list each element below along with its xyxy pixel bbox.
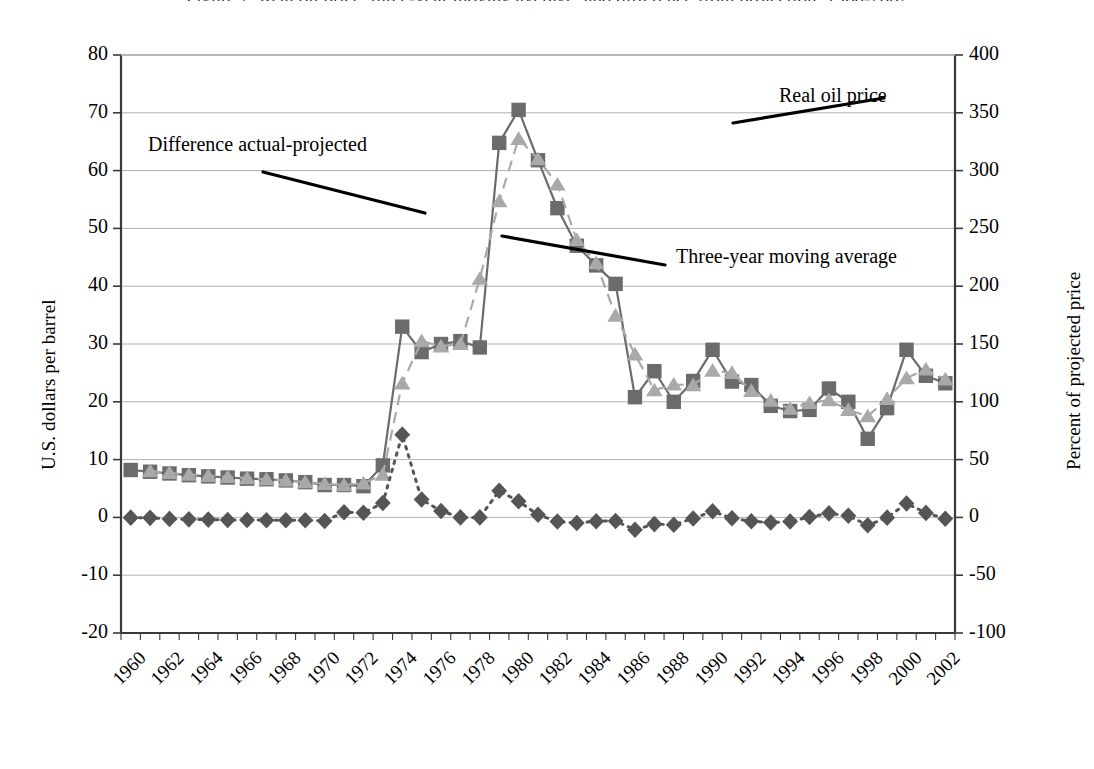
chart-plot-svg [0,0,1094,769]
data-point [317,513,333,530]
left-axis-tick--10: -10 [81,562,108,585]
annotation-difference-actual-projected: Difference actual-projected [148,133,367,156]
data-point [898,371,915,385]
left-axis-tick-60: 60 [88,158,108,181]
data-point [472,509,488,526]
chart-figure: Figure 2. Real oil price, three-year mov… [0,0,1094,769]
data-point [395,319,409,333]
left-axis-title: U.S. dollars per barrel [38,299,60,470]
data-point [840,507,856,524]
data-point [491,483,507,500]
data-point [763,514,779,531]
left-axis-tick-30: 30 [88,331,108,354]
left-axis-tick-70: 70 [88,100,108,123]
data-point [608,277,622,291]
data-point [705,343,719,357]
data-point [879,509,895,526]
data-point [860,517,876,534]
data-point [530,506,546,523]
data-point [724,510,740,527]
data-point [782,513,798,530]
data-point [394,426,410,443]
right-axis-tick-300: 300 [969,158,999,181]
right-axis-tick--50: -50 [969,562,996,585]
data-point [704,363,721,377]
data-point [549,513,565,530]
data-point [511,493,527,510]
data-point [162,511,178,528]
data-point [608,513,624,530]
data-point [336,504,352,521]
data-point [510,131,527,145]
annotation-three-year-moving-average: Three-year moving average [676,245,897,268]
left-axis-tick--20: -20 [81,620,108,643]
data-point [667,395,681,409]
data-point [123,509,139,526]
right-axis-tick-0: 0 [969,504,979,527]
data-point [200,511,216,528]
data-point [899,343,913,357]
data-point [356,504,372,521]
right-axis-tick-100: 100 [969,389,999,412]
data-point [899,495,915,512]
data-point [278,512,294,529]
data-point [297,512,313,529]
left-axis-tick-40: 40 [88,273,108,296]
data-point [647,364,661,378]
data-point [937,510,953,527]
data-point [394,376,411,390]
data-point [666,516,682,533]
data-point [588,513,604,530]
data-point [627,521,643,538]
right-axis-tick-50: 50 [969,447,989,470]
right-axis-tick-400: 400 [969,42,999,65]
data-point [685,510,701,527]
right-axis-tick-150: 150 [969,331,999,354]
data-point [861,432,875,446]
data-point [492,136,506,150]
left-axis-tick-80: 80 [88,42,108,65]
data-point [142,510,158,527]
data-point [802,509,818,526]
data-point [743,513,759,530]
data-point [627,347,644,361]
data-point [918,505,934,522]
data-point [452,509,468,526]
right-axis-title: Percent of projected price [1063,272,1085,470]
data-point [259,512,275,529]
data-point [473,340,487,354]
data-point [414,491,430,508]
data-point [375,495,391,512]
left-axis-tick-0: 0 [98,504,108,527]
data-point [239,512,255,529]
left-axis-tick-20: 20 [88,389,108,412]
annotation-real-oil-price: Real oil price [779,84,887,107]
data-point [220,512,236,529]
data-point [181,511,197,528]
data-point [549,177,566,191]
right-axis-tick--100: -100 [969,620,1006,643]
right-axis-tick-200: 200 [969,273,999,296]
data-point [433,503,449,520]
data-point [646,516,662,533]
right-axis-tick-350: 350 [969,100,999,123]
data-point [511,103,525,117]
right-axis-tick-250: 250 [969,215,999,238]
data-point [821,505,837,522]
data-point [628,390,642,404]
data-point [413,334,430,348]
data-point [550,201,564,215]
left-axis-tick-50: 50 [88,215,108,238]
left-axis-tick-10: 10 [88,447,108,470]
data-point [123,463,137,477]
